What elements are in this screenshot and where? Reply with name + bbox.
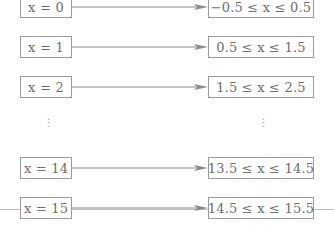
interval-box: 13.5 ≤ x ≤ 14.5	[208, 157, 314, 179]
discrete-value-label: x = 2	[28, 80, 64, 95]
arrow-icon	[72, 162, 208, 174]
interval-label: 1.5 ≤ x ≤ 2.5	[216, 80, 306, 95]
interval-box: 14.5 ≤ x ≤ 15.5	[208, 197, 314, 219]
interval-label: 14.5 ≤ x ≤ 15.5	[208, 201, 315, 216]
ellipsis-right: ⋮	[258, 122, 264, 125]
discrete-value-box: x = 14	[20, 157, 72, 179]
discrete-value-box: x = 0	[20, 0, 72, 18]
discrete-value-label: x = 1	[28, 40, 64, 55]
discrete-value-label: x = 14	[24, 161, 68, 176]
discrete-value-label: x = 0	[28, 0, 64, 15]
discrete-value-label: x = 15	[24, 201, 68, 216]
discrete-value-box: x = 1	[20, 36, 72, 58]
ellipsis-glyph: ⋮	[43, 117, 54, 130]
arrow-icon	[72, 1, 208, 13]
discrete-value-box: x = 2	[20, 76, 72, 98]
arrow-icon	[72, 81, 208, 93]
interval-label: 0.5 ≤ x ≤ 1.5	[216, 40, 306, 55]
interval-box: −0.5 ≤ x ≤ 0.5	[208, 0, 314, 18]
interval-label: −0.5 ≤ x ≤ 0.5	[211, 0, 312, 15]
discrete-value-box: x = 15	[20, 197, 72, 219]
ellipsis-left: ⋮	[43, 122, 49, 125]
interval-box: 0.5 ≤ x ≤ 1.5	[208, 36, 314, 58]
interval-label: 13.5 ≤ x ≤ 14.5	[208, 161, 315, 176]
interval-box: 1.5 ≤ x ≤ 2.5	[208, 76, 314, 98]
ellipsis-glyph: ⋮	[258, 117, 269, 130]
arrow-icon	[72, 41, 208, 53]
arrow-icon	[72, 202, 208, 214]
